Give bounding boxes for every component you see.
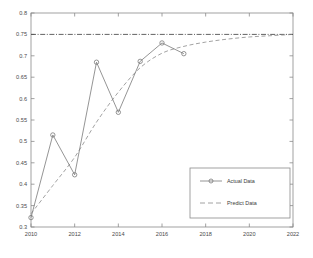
x-axis-tick-labels: 2010201220142016201820202022	[25, 231, 299, 237]
y-tick-label: 0.6	[19, 96, 27, 102]
x-tick-label: 2018	[199, 231, 211, 237]
y-tick-label: 0.35	[16, 203, 27, 209]
y-tick-label: 0.7	[19, 53, 27, 59]
x-tick-label: 2012	[68, 231, 80, 237]
y-tick-label: 0.65	[16, 74, 27, 80]
chart-canvas: 0.30.350.40.450.50.550.60.650.70.750.8 2…	[0, 0, 313, 258]
y-tick-label: 0.45	[16, 160, 27, 166]
x-tick-label: 2014	[112, 231, 124, 237]
y-axis-tick-labels: 0.30.350.40.450.50.550.60.650.70.750.8	[16, 10, 27, 230]
legend-box	[190, 168, 290, 218]
y-tick-label: 0.55	[16, 117, 27, 123]
y-tick-label: 0.75	[16, 31, 27, 37]
x-tick-label: 2016	[156, 231, 168, 237]
y-tick-label: 0.4	[19, 181, 27, 187]
legend-label-actual-data: Actual Data	[227, 178, 255, 184]
legend-label-predict-data: Predict Data	[227, 200, 257, 206]
x-tick-label: 2020	[243, 231, 255, 237]
y-tick-label: 0.3	[19, 224, 27, 230]
legend[interactable]: Actual Data Predict Data	[190, 168, 290, 218]
y-tick-label: 0.8	[19, 10, 27, 16]
figure-container: 0.30.350.40.450.50.550.60.650.70.750.8 2…	[0, 0, 313, 258]
y-tick-label: 0.5	[19, 138, 27, 144]
x-tick-label: 2010	[25, 231, 37, 237]
x-tick-label: 2022	[287, 231, 299, 237]
